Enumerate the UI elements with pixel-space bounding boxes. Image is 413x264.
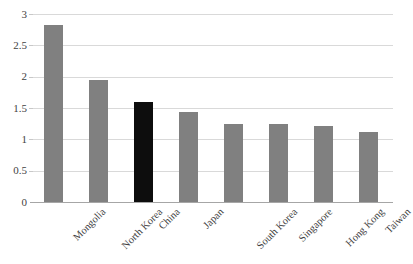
x-label-hong-kong: Hong Kong — [343, 206, 386, 249]
bar-mongolia[interactable] — [44, 25, 63, 202]
bar-north-korea[interactable] — [89, 80, 108, 202]
x-label-japan: Japan — [201, 206, 226, 231]
bar-hong-kong[interactable] — [314, 126, 333, 202]
bar-china[interactable] — [134, 102, 153, 202]
x-label-north-korea: North Korea — [119, 206, 165, 252]
y-tick-label-2-5: 2.5 — [13, 40, 27, 51]
y-tick-label-0-5: 0.5 — [13, 165, 27, 176]
bar-taiwan[interactable] — [359, 132, 378, 202]
bars-layer — [33, 14, 393, 202]
y-tick-label-0: 0 — [22, 197, 28, 208]
bar-south-korea[interactable] — [224, 124, 243, 202]
bar-singapore[interactable] — [269, 124, 288, 202]
y-tick-label-2: 2 — [22, 71, 28, 82]
x-label-taiwan: Taiwan — [383, 206, 413, 236]
y-tick-label-1: 1 — [22, 134, 28, 145]
x-axis-line — [30, 202, 393, 203]
x-label-singapore: Singapore — [296, 206, 335, 245]
bar-japan[interactable] — [179, 112, 198, 202]
y-tick-label-1-5: 1.5 — [13, 103, 27, 114]
y-axis-tick-labels: 3 2.5 2 1.5 1 0.5 0 — [0, 0, 27, 264]
x-label-mongolia: Mongolia — [70, 206, 107, 243]
x-label-south-korea: South Korea — [254, 206, 300, 252]
y-tick-label-3: 3 — [22, 9, 28, 20]
